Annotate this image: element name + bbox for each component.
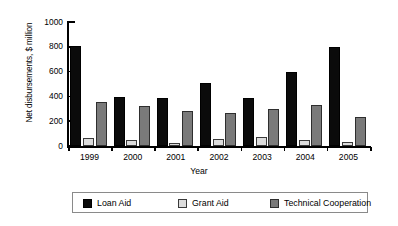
y-tick-label: 400 (29, 92, 63, 100)
x-tick (327, 147, 329, 151)
x-tick-label-1999: 1999 (68, 152, 112, 162)
legend-swatch-icon (178, 199, 187, 208)
bar-technical-cooperation-2000 (139, 106, 150, 146)
bar-grant-aid-2002 (213, 139, 224, 146)
y-tick-label: 600 (29, 67, 63, 75)
x-tick (197, 147, 199, 151)
bar-technical-cooperation-2005 (355, 117, 366, 147)
x-tick-label-2001: 2001 (154, 152, 198, 162)
y-tick-label: 800 (29, 42, 63, 50)
bar-technical-cooperation-2002 (225, 113, 236, 146)
bar-grant-aid-2003 (256, 137, 267, 146)
x-tick (284, 147, 286, 151)
bar-technical-cooperation-2003 (268, 109, 279, 146)
y-tick-label: 0 (29, 142, 63, 150)
x-tick-label-2003: 2003 (240, 152, 284, 162)
bar-loan-aid-2001 (157, 98, 168, 146)
bar-loan-aid-2003 (243, 98, 254, 146)
bar-chart-figure: Net disbursements, $ million 02004006008… (0, 0, 398, 226)
legend-item-technical-cooperation[interactable]: Technical Cooperation (270, 197, 371, 210)
bar-grant-aid-2005 (342, 142, 353, 146)
bar-grant-aid-2001 (169, 143, 180, 146)
x-axis-title: Year (0, 166, 398, 176)
bar-grant-aid-2004 (299, 140, 310, 146)
bar-technical-cooperation-2001 (182, 111, 193, 146)
x-tick-label-2000: 2000 (111, 152, 155, 162)
legend-swatch-icon (83, 199, 92, 208)
bar-loan-aid-1999 (70, 46, 81, 146)
x-tick-label-2004: 2004 (283, 152, 327, 162)
x-tick (154, 147, 156, 151)
bar-technical-cooperation-1999 (96, 102, 107, 146)
legend-label: Technical Cooperation (284, 199, 371, 208)
y-tick-label: 200 (29, 117, 63, 125)
legend-item-grant-aid[interactable]: Grant Aid (178, 197, 229, 210)
x-tick (68, 147, 70, 151)
chart-legend: Loan AidGrant AidTechnical Cooperation (72, 192, 368, 213)
legend-label: Loan Aid (97, 199, 131, 208)
bar-grant-aid-1999 (83, 138, 94, 146)
legend-label: Grant Aid (192, 199, 229, 208)
x-tick-label-2002: 2002 (197, 152, 241, 162)
bar-grant-aid-2000 (126, 140, 137, 146)
y-tick-label: 1000 (29, 18, 63, 26)
legend-item-loan-aid[interactable]: Loan Aid (83, 197, 131, 210)
bar-loan-aid-2005 (329, 47, 340, 146)
bar-technical-cooperation-2004 (311, 105, 322, 146)
x-tick (370, 147, 372, 151)
plot-area (68, 22, 370, 146)
x-tick (111, 147, 113, 151)
x-tick-label-2005: 2005 (326, 152, 370, 162)
bar-loan-aid-2004 (286, 72, 297, 146)
bar-loan-aid-2002 (200, 83, 211, 146)
legend-swatch-icon (270, 199, 279, 208)
bar-loan-aid-2000 (114, 97, 125, 146)
x-tick (241, 147, 243, 151)
